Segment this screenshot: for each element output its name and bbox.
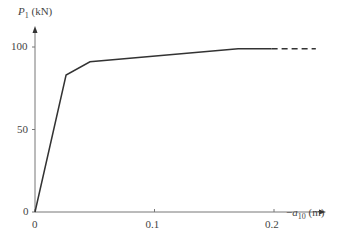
y-tick-label: 50: [17, 123, 28, 135]
x-axis-label: −a10 (m): [286, 206, 324, 221]
y-tick-label: 100: [11, 40, 28, 52]
x-tick-label: 0.2: [265, 218, 279, 230]
chart-canvas: [0, 0, 346, 241]
series-solid: [35, 49, 272, 212]
y-axis-label: P1 (kN): [18, 5, 52, 20]
y-axis-arrow-icon: [33, 26, 38, 33]
y-tick-label: 0: [23, 205, 29, 217]
x-tick-label: 0.1: [146, 218, 160, 230]
x-tick-label: 0: [32, 218, 38, 230]
